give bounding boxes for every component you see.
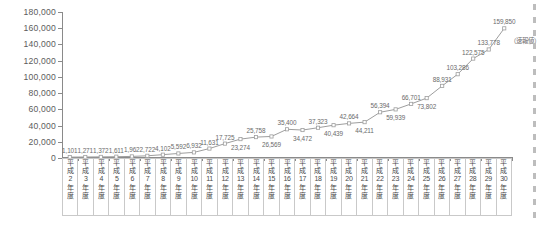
x-axis-category-label: 平成21年度 (356, 158, 371, 216)
x-label-era: 平 (330, 159, 337, 167)
x-label-suffix-1: 年 (500, 184, 507, 192)
x-label-era: 平 (82, 159, 89, 167)
x-label-era: 平 (237, 159, 244, 167)
data-point-label: 44,211 (355, 127, 373, 134)
x-label-era: 平 (284, 159, 291, 167)
x-label-year-number: 14 (252, 175, 259, 183)
data-point-marker (379, 111, 382, 114)
x-label-year-number: 7 (146, 175, 150, 183)
x-axis-category-label: 平成17年度 (294, 158, 309, 216)
x-label-suffix-1: 年 (144, 184, 151, 192)
data-point-label: 4,102 (155, 144, 171, 151)
x-label-suffix-2: 度 (98, 192, 105, 200)
x-label-era-2: 成 (438, 167, 445, 175)
x-label-era-2: 成 (113, 167, 120, 175)
x-label-year-number: 16 (283, 175, 290, 183)
x-label-suffix-2: 度 (423, 192, 430, 200)
x-label-era: 平 (392, 159, 399, 167)
data-point-label: 2,722 (140, 145, 156, 152)
data-point-marker (487, 48, 490, 51)
x-label-year-number: 2 (68, 175, 72, 183)
x-label-year-number: 18 (314, 175, 321, 183)
x-label-suffix-2: 度 (345, 192, 352, 200)
x-label-suffix-2: 度 (144, 192, 151, 200)
x-label-era: 平 (454, 159, 461, 167)
data-point-label: 66,701 (402, 93, 421, 100)
data-point-label: 42,664 (340, 113, 359, 120)
x-axis-category-label: 平成10年度 (186, 158, 201, 216)
x-axis-category-label: 平成25年度 (418, 158, 433, 216)
x-axis-category-label: 平成7年度 (139, 158, 154, 216)
x-label-era-2: 成 (500, 167, 507, 175)
data-point-marker (270, 135, 273, 138)
x-label-suffix-1: 年 (82, 184, 89, 192)
page-edge-dashed-marker (533, 4, 536, 222)
x-label-suffix-2: 度 (299, 192, 306, 200)
x-label-suffix-1: 年 (407, 184, 414, 192)
data-point-label: 35,400 (278, 119, 297, 126)
x-label-year-number: 10 (191, 175, 198, 183)
data-point-label: 103,286 (446, 64, 468, 71)
x-label-suffix-2: 度 (407, 192, 414, 200)
x-axis-category-label: 平成19年度 (325, 158, 340, 216)
x-label-year-number: 8 (161, 175, 165, 183)
x-axis-category-label: 平成27年度 (449, 158, 464, 216)
x-label-suffix-1: 年 (345, 184, 352, 192)
x-label-suffix-1: 年 (98, 184, 105, 192)
x-label-year-number: 20 (345, 175, 352, 183)
series-line (70, 28, 504, 157)
x-label-suffix-1: 年 (423, 184, 430, 192)
y-axis-tick-label: 60,000 (29, 104, 63, 114)
x-label-suffix-1: 年 (268, 184, 275, 192)
x-label-suffix-1: 年 (469, 184, 476, 192)
data-point-label: 56,394 (371, 102, 390, 109)
y-axis-tick-label: 160,000 (24, 23, 62, 33)
data-point-label: 1,101 (62, 147, 78, 154)
x-label-era-2: 成 (191, 167, 198, 175)
plot-area: 180,000160,000140,000120,000100,00080,00… (62, 12, 512, 158)
data-point-label: 88,931 (433, 75, 452, 82)
x-axis-category-labels: 平成2年度平成3年度平成4年度平成5年度平成6年度平成7年度平成8年度平成9年度… (62, 158, 512, 216)
x-label-suffix-1: 年 (253, 184, 260, 192)
x-label-era: 平 (361, 159, 368, 167)
x-label-year-number: 12 (221, 175, 228, 183)
x-label-year-number: 11 (206, 175, 213, 183)
x-label-era: 平 (485, 159, 492, 167)
x-axis-category-label: 平成3年度 (77, 158, 92, 216)
x-label-suffix-2: 度 (376, 192, 383, 200)
x-labels-bottom-rule (62, 215, 512, 216)
x-axis-category-label: 平成24年度 (403, 158, 418, 216)
x-axis-category-label: 平成13年度 (232, 158, 247, 216)
x-label-year-number: 25 (423, 175, 430, 183)
x-label-suffix-2: 度 (361, 192, 368, 200)
data-point-label: 122,575 (462, 48, 484, 55)
x-axis-category-label: 平成26年度 (434, 158, 449, 216)
data-point-marker (441, 84, 444, 87)
x-label-year-number: 19 (330, 175, 337, 183)
x-label-era-2: 成 (469, 167, 476, 175)
x-label-era: 平 (191, 159, 198, 167)
x-label-suffix-2: 度 (485, 192, 492, 200)
x-label-year-number: 9 (177, 175, 181, 183)
x-label-era: 平 (129, 159, 136, 167)
x-label-suffix-2: 度 (454, 192, 461, 200)
x-label-suffix-2: 度 (67, 192, 74, 200)
x-label-suffix-2: 度 (438, 192, 445, 200)
x-label-era: 平 (175, 159, 182, 167)
x-label-era-2: 成 (284, 167, 291, 175)
x-label-year-number: 5 (115, 175, 119, 183)
x-label-suffix-2: 度 (222, 192, 229, 200)
data-point-label: 25,758 (246, 127, 265, 134)
x-label-year-number: 30 (500, 175, 507, 183)
data-point-marker (239, 138, 242, 141)
x-label-suffix-2: 度 (82, 192, 89, 200)
x-label-year-number: 15 (268, 175, 275, 183)
x-axis-category-label: 平成8年度 (155, 158, 170, 216)
data-point-marker (223, 142, 226, 145)
x-label-era-2: 成 (160, 167, 167, 175)
x-label-year-number: 28 (469, 175, 476, 183)
x-label-era: 平 (500, 159, 507, 167)
data-point-label: 34,472 (293, 135, 312, 142)
data-point-label: 17,725 (215, 133, 234, 140)
data-point-label: 40,439 (324, 130, 343, 137)
